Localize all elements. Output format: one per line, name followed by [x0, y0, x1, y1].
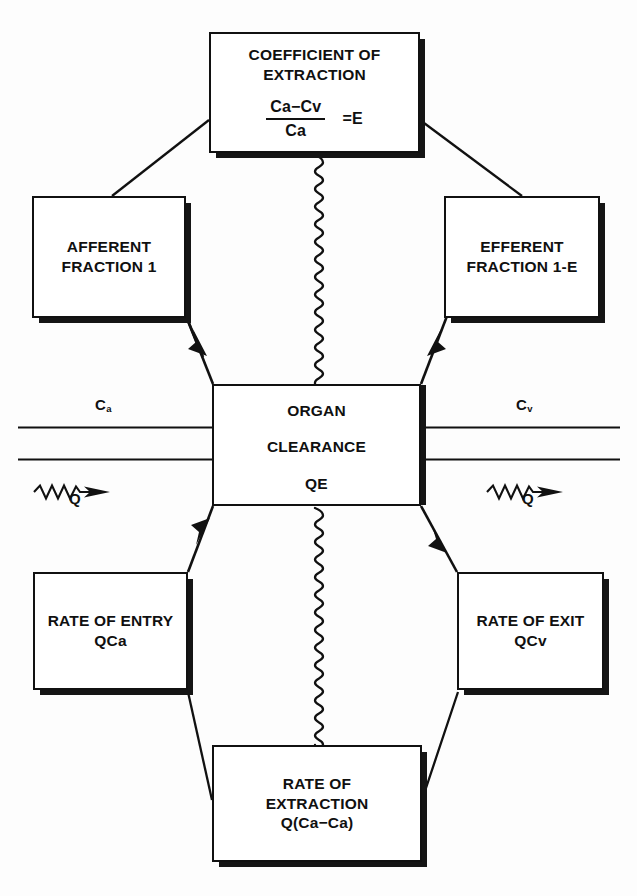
- node-coefficient-line-2: EXTRACTION: [263, 65, 366, 85]
- node-efferent-line-1: EFFERENT: [480, 237, 563, 257]
- fraction-numerator: Ca−Cv: [266, 98, 325, 117]
- node-afferent-line-1: AFFERENT: [67, 237, 151, 257]
- label-flow-right: Q: [522, 490, 534, 507]
- connector-coefficient-afferent: [112, 120, 209, 196]
- node-organ-line-1: ORGAN: [287, 401, 346, 421]
- node-rate-of-extraction[interactable]: RATE OF EXTRACTION Q(Ca−Ca): [212, 745, 422, 862]
- connector-rate-entry-extraction: [188, 692, 212, 800]
- node-afferent-line-2: FRACTION 1: [62, 257, 157, 277]
- extraction-fraction: Ca−Cv Ca: [266, 98, 325, 140]
- node-rate-exit-line-2: QCv: [514, 631, 546, 651]
- node-rate-entry-line-1: RATE OF ENTRY: [48, 611, 174, 631]
- label-arterial-concentration: Ca: [95, 396, 111, 413]
- label-flow-left: Q: [69, 490, 81, 507]
- diagram-canvas: COEFFICIENT OF EXTRACTION Ca−Cv Ca =E AF…: [0, 0, 637, 896]
- node-rate-entry-line-2: QCa: [94, 631, 126, 651]
- node-organ-line-2: CLEARANCE: [267, 437, 366, 457]
- fraction-bar: [266, 118, 325, 121]
- node-afferent-fraction[interactable]: AFFERENT FRACTION 1: [32, 196, 186, 318]
- node-rate-of-entry[interactable]: RATE OF ENTRY QCa: [33, 572, 188, 690]
- connector-coefficient-efferent: [420, 120, 522, 196]
- node-organ-clearance[interactable]: ORGAN CLEARANCE QE: [212, 384, 421, 506]
- node-rate-of-exit[interactable]: RATE OF EXIT QCv: [457, 572, 604, 690]
- connector-rate-exit-extraction: [422, 692, 458, 800]
- node-efferent-fraction[interactable]: EFFERENT FRACTION 1-E: [444, 196, 600, 318]
- fraction-denominator: Ca: [281, 121, 310, 140]
- connector-afferent-organ: [186, 316, 213, 384]
- node-rate-extraction-line-3: Q(Ca−Ca): [281, 813, 354, 833]
- node-efferent-line-2: FRACTION 1-E: [467, 257, 578, 277]
- label-ca-subscript: a: [106, 403, 111, 414]
- extraction-formula: Ca−Cv Ca =E: [266, 98, 363, 140]
- label-cv-symbol: C: [516, 396, 527, 413]
- label-cv-subscript: v: [527, 403, 532, 414]
- node-rate-extraction-line-2: EXTRACTION: [266, 794, 369, 814]
- node-rate-extraction-line-1: RATE OF: [283, 774, 351, 794]
- coil-coefficient-organ: [315, 155, 323, 384]
- label-ca-symbol: C: [95, 396, 106, 413]
- connector-organ-efferent: [421, 316, 447, 384]
- node-rate-exit-line-1: RATE OF EXIT: [476, 611, 584, 631]
- connector-rate-entry-organ: [188, 506, 213, 572]
- node-coefficient-line-1: COEFFICIENT OF: [249, 45, 381, 65]
- coil-organ-extraction: [315, 508, 323, 753]
- fraction-equals: =E: [342, 110, 362, 128]
- node-coefficient-of-extraction[interactable]: COEFFICIENT OF EXTRACTION Ca−Cv Ca =E: [209, 32, 420, 153]
- node-organ-line-3: QE: [305, 474, 328, 494]
- connector-organ-rate-exit: [421, 506, 457, 572]
- label-venous-concentration: Cv: [516, 396, 532, 413]
